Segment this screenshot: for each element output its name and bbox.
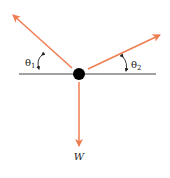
weight-label: W (74, 151, 85, 162)
theta2-label: θ2 (131, 59, 142, 72)
force-arrow-left (13, 15, 72, 68)
free-body-diagram: θ1 θ2 W (0, 0, 170, 178)
force-arrow-right (88, 35, 160, 69)
angle-arc-1 (38, 55, 42, 69)
angle-arc-2 (123, 57, 127, 71)
theta1-label: θ1 (25, 57, 36, 70)
node-dot (73, 68, 85, 80)
